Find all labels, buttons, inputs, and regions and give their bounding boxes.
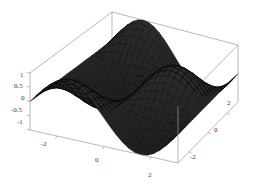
z-tick-label-3: -0.5 (11, 107, 22, 114)
z-tick-label-1: 0.5 (14, 83, 23, 90)
surface-plot-figure: 10.50-0.5-1 -202 20-2 (0, 0, 258, 187)
x-tick-label-0: -2 (41, 141, 47, 148)
x-tick-label-2: 2 (148, 172, 152, 179)
z-tick-label-4: -1 (17, 119, 23, 126)
y-tick-label-0: 2 (227, 100, 231, 107)
y-tick-label-2: -2 (190, 154, 196, 161)
z-tick-label-0: 1 (20, 72, 24, 79)
y-tick-label-1: 0 (214, 127, 218, 134)
z-tick-label-2: 0 (21, 95, 25, 102)
surface-plot-canvas (0, 0, 258, 187)
x-tick-label-1: 0 (95, 157, 99, 164)
